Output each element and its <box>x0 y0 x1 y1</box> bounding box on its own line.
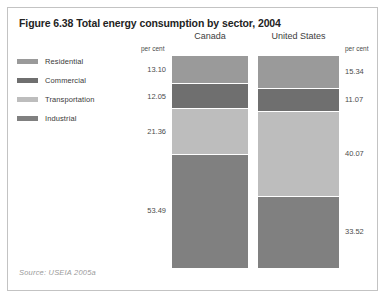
segment-value-label: 40.07 <box>345 149 364 158</box>
source-note: Source: USEIA 2005a <box>19 268 96 277</box>
unit-label-left: per cent <box>141 45 165 52</box>
bar-segment <box>172 84 248 110</box>
stacked-bar-canada <box>172 56 248 268</box>
chart-plot-area: Canada United States per cent per cent 1… <box>0 0 387 300</box>
segment-value-label: 11.07 <box>345 95 363 104</box>
bar-segment <box>172 56 248 84</box>
segment-value-label: 53.49 <box>147 206 166 215</box>
bar-segment <box>258 56 339 89</box>
column-header-canada: Canada <box>172 31 248 41</box>
unit-label-right: per cent <box>345 45 369 52</box>
segment-value-label: 15.34 <box>345 67 364 76</box>
bar-segment <box>258 89 339 112</box>
segment-value-label: 21.36 <box>147 127 166 136</box>
column-header-united-states: United States <box>258 31 339 41</box>
segment-value-label: 13.10 <box>147 65 166 74</box>
bar-segment <box>258 197 339 268</box>
bar-segment <box>172 155 248 268</box>
bar-segment <box>172 109 248 154</box>
bar-segment <box>258 112 339 197</box>
segment-value-label: 12.05 <box>147 92 166 101</box>
stacked-bar-united-states <box>258 56 339 268</box>
figure-container: Figure 6.38 Total energy consumption by … <box>0 0 387 300</box>
segment-value-label: 33.52 <box>345 227 364 236</box>
